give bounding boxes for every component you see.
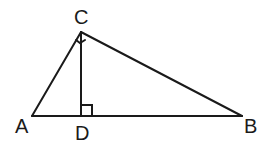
segment-ac <box>32 32 81 116</box>
label-a: A <box>15 115 29 137</box>
label-d: D <box>75 122 89 144</box>
triangle-diagram: C A D B <box>0 0 266 153</box>
right-angle-marker-d <box>81 105 92 116</box>
label-c: C <box>74 6 88 28</box>
segment-cb <box>81 32 242 116</box>
label-b: B <box>244 115 257 137</box>
